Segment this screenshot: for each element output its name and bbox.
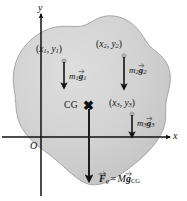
paren-close: ) xyxy=(132,98,135,108)
m1g1-label: m1g1 xyxy=(69,72,87,82)
gravity-symbol: g xyxy=(139,65,144,75)
paren-close: ) xyxy=(119,39,122,49)
gravity-cg-subscript: CG xyxy=(131,177,140,184)
resultant-force-equation: Fg=MgCG xyxy=(99,174,140,185)
gravity-subscript: 2 xyxy=(143,68,146,75)
cg-label: CG xyxy=(64,101,78,111)
gravity-vector-group: g xyxy=(79,72,84,81)
gravity-symbol: g xyxy=(79,71,84,81)
force-symbol: F xyxy=(99,173,106,184)
x-axis-label: x xyxy=(173,131,177,141)
force-subscript: g xyxy=(106,177,109,184)
center-of-gravity-figure: y x O (x1, y1) m1g1 (x2, y2) m2g2 (x3, y… xyxy=(0,0,187,201)
m3g3-label: m3g3 xyxy=(137,119,155,129)
gravity-vector-group: g xyxy=(139,66,144,75)
gravity-symbol: g xyxy=(147,118,152,128)
gravity-vector-group: g xyxy=(147,119,152,128)
gravity-subscript: 3 xyxy=(151,121,154,128)
total-mass-symbol: M xyxy=(118,173,126,184)
origin-label: O xyxy=(30,141,37,151)
particle-1-coordinate-label: (x1, y1) xyxy=(36,45,62,55)
force-vector-group: F xyxy=(99,174,106,184)
paren-close: ) xyxy=(59,44,62,54)
equals-sign: = xyxy=(110,173,116,184)
gravity-cg-vector-group: g xyxy=(126,174,131,184)
particle-2-coordinate-label: (x2, y2) xyxy=(96,40,122,50)
y-axis-label: y xyxy=(38,3,42,13)
m2g2-label: m2g2 xyxy=(129,66,147,76)
gravity-symbol: g xyxy=(126,173,131,184)
particle-3-coordinate-label: (x3, y3) xyxy=(109,99,135,109)
cg-cross-marker-icon: ✖ xyxy=(83,99,94,112)
gravity-subscript: 1 xyxy=(83,74,86,81)
